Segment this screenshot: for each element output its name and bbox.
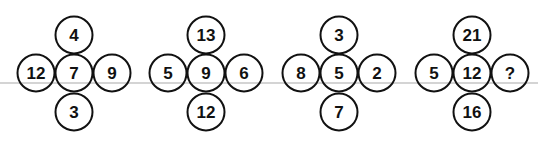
circle-bottom: 16 [453,93,492,132]
circle-bottom: 3 [55,93,94,132]
circle-left: 8 [282,54,321,93]
circle-top: 13 [187,16,226,55]
circle-center: 12 [453,54,492,93]
circle-center: 7 [55,54,94,93]
circle-top: 3 [320,16,359,55]
circle-top: 4 [55,16,94,55]
circle-right-unknown: ? [491,54,530,93]
circle-center: 9 [187,54,226,93]
circle-top: 21 [453,16,492,55]
circle-left: 12 [17,54,56,93]
circle-left: 5 [415,54,454,93]
circle-right: 2 [358,54,397,93]
circle-bottom: 12 [187,93,226,132]
circle-center: 5 [320,54,359,93]
circle-bottom: 7 [320,93,359,132]
circle-left: 5 [149,54,188,93]
circle-right: 9 [93,54,132,93]
circle-right: 6 [225,54,264,93]
